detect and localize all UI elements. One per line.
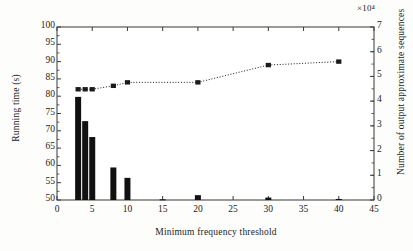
x-tick-label: 20 — [183, 204, 213, 214]
x-tick-label: 5 — [77, 204, 107, 214]
bar — [110, 167, 116, 200]
x-axis-label: Minimum frequency threshold — [57, 227, 375, 237]
square-marker — [195, 80, 200, 84]
y-tick-label: 65 — [25, 141, 55, 151]
y-tick-label: 95 — [25, 37, 55, 47]
bar — [89, 137, 95, 200]
bar — [195, 195, 201, 200]
plot-frame — [57, 27, 374, 200]
y-tick-label: 50 — [25, 193, 55, 203]
y-tick-label: 60 — [25, 158, 55, 168]
square-marker — [83, 87, 88, 91]
y2-tick-label: 2 — [377, 144, 407, 154]
y2-tick-label: 5 — [377, 69, 407, 79]
figure-container: Running time (s) Number of output approx… — [0, 0, 413, 251]
bar — [160, 199, 166, 200]
y2-tick-label: 6 — [377, 45, 407, 55]
y-tick-label: 55 — [25, 176, 55, 186]
x-tick-label: 35 — [289, 204, 319, 214]
x-tick-label: 15 — [148, 204, 178, 214]
y2-tick-label: 3 — [377, 119, 407, 129]
y-tick-label: 85 — [25, 72, 55, 82]
y-tick-label: 70 — [25, 124, 55, 134]
y-tick-label: 75 — [25, 107, 55, 117]
x-tick-label: 40 — [324, 204, 354, 214]
square-marker — [125, 80, 130, 84]
square-marker — [266, 63, 271, 67]
y2-tick-label: 4 — [377, 94, 407, 104]
x-tick-label: 30 — [253, 204, 283, 214]
bar — [124, 178, 130, 200]
y-tick-label: 100 — [25, 20, 55, 30]
bar — [265, 198, 271, 200]
x-tick-label: 0 — [42, 204, 72, 214]
square-marker — [336, 59, 341, 63]
y-axis-left-label: Running time (s) — [11, 43, 21, 173]
square-marker — [90, 87, 95, 91]
y2-tick-label: 0 — [377, 193, 407, 203]
y-axis-right-multiplier: ×10⁴ — [357, 3, 375, 13]
y2-tick-label: 1 — [377, 168, 407, 178]
x-tick-label: 10 — [112, 204, 142, 214]
bar — [336, 199, 342, 200]
bar — [82, 121, 88, 200]
x-tick-label: 45 — [359, 204, 389, 214]
x-tick-label: 25 — [218, 204, 248, 214]
y-axis-right-label: Number of output approximate sequences — [396, 35, 406, 175]
y-tick-label: 80 — [25, 89, 55, 99]
bar — [75, 97, 81, 200]
y2-tick-label: 7 — [377, 20, 407, 30]
square-marker — [76, 87, 81, 91]
square-marker — [111, 84, 116, 88]
y-tick-label: 90 — [25, 55, 55, 65]
